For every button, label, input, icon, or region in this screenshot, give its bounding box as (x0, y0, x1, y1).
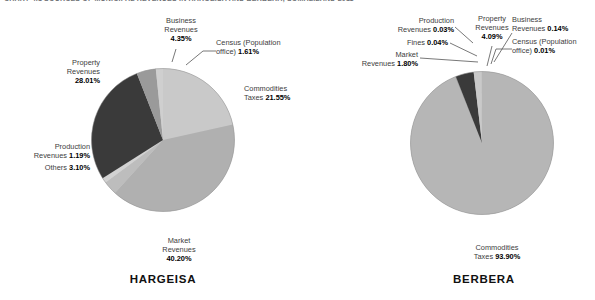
label-production-revenues-hargeisa: Production Revenues 1.19% (18, 142, 90, 160)
pie-chart-berbera (410, 71, 554, 215)
label-line1: Census (Population (512, 37, 577, 46)
label-property-revenues-hargeisa: Property Revenues 28.01% (36, 58, 100, 86)
label-line1: Commodities (475, 243, 518, 252)
label-line2: Revenues (67, 67, 100, 76)
label-value: 40.20% (166, 254, 191, 263)
label-line1: Commodities (244, 84, 287, 93)
label-value: 0.04% (427, 38, 448, 47)
pie-slices-hargeisa (91, 68, 235, 212)
label-line2: Taxes (474, 252, 493, 261)
label-line2: Revenues (398, 25, 431, 34)
label-line1: Business (166, 16, 196, 25)
label-value: 4.09% (482, 32, 503, 41)
figure-title: CHART 4.1 SOURCES OF MUNICIPAL REVENUES … (4, 0, 564, 4)
label-line1: Business (512, 15, 542, 24)
label-line1: Production (55, 142, 90, 151)
pie-slices-berbera (410, 71, 554, 215)
label-production-revenues-berbera: Production Revenues 0.03% (370, 16, 454, 34)
label-value: 1.61% (238, 47, 259, 56)
label-value: 93.90% (495, 252, 520, 261)
label-value: 28.01% (75, 76, 100, 85)
label-line2: Revenues (475, 23, 508, 32)
label-value: 0.01% (534, 46, 555, 55)
label-value: 4.35% (171, 34, 192, 43)
label-business-revenues-berbera: Business Revenues 0.14% (512, 15, 592, 33)
label-market-revenues-hargeisa: Market Revenues 40.20% (146, 236, 212, 264)
label-business-revenues-hargeisa: Business Revenues 4.35% (150, 16, 212, 44)
label-fines-berbera: Fines 0.04% (376, 38, 448, 47)
label-line2: Revenues (34, 151, 67, 160)
pie-chart-hargeisa (91, 68, 235, 212)
label-line1: Production (419, 16, 454, 25)
label-commodities-taxes-hargeisa: Commodities Taxes 21.55% (244, 84, 316, 102)
label-line2: Others (45, 163, 67, 172)
label-line2: Revenues (512, 24, 545, 33)
label-census-population-hargeisa: Census (Population office) 1.61% (216, 38, 312, 56)
label-line2: Taxes (244, 93, 263, 102)
label-line2: office) (216, 47, 236, 56)
label-value: 3.10% (69, 163, 90, 172)
label-line1: Census (Population (216, 38, 281, 47)
label-others-hargeisa: Others 3.10% (18, 163, 90, 172)
label-line1: Property (72, 58, 100, 67)
label-line1: Market (168, 236, 191, 245)
label-line2: Revenues (362, 59, 395, 68)
label-census-population-berbera: Census (Population office) 0.01% (512, 37, 595, 55)
label-market-revenues-berbera: Market Revenues 1.80% (346, 50, 418, 68)
label-commodities-taxes-berbera: Commodities Taxes 93.90% (455, 243, 539, 261)
city-name-berbera: BERBERA (434, 273, 534, 285)
label-line1: Property (478, 14, 506, 23)
label-value: 21.55% (265, 93, 290, 102)
chart-figure: CHART 4.1 SOURCES OF MUNICIPAL REVENUES … (0, 0, 595, 300)
label-line2: Revenues (164, 25, 197, 34)
label-value: 1.80% (397, 59, 418, 68)
label-line2: Revenues (162, 245, 195, 254)
label-value: 1.19% (69, 151, 90, 160)
label-line1: Market (395, 50, 418, 59)
label-value: 0.14% (547, 24, 568, 33)
city-name-hargeisa: HARGEISA (113, 273, 213, 285)
label-line2: Fines (407, 38, 425, 47)
label-line2: office) (512, 46, 532, 55)
label-value: 0.03% (433, 25, 454, 34)
